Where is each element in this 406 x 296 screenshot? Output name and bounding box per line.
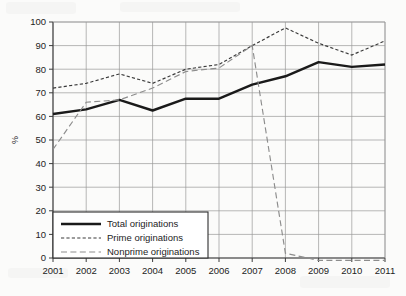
y-axis-tick-label: 100 bbox=[30, 16, 46, 27]
y-axis-tick-label: 0 bbox=[41, 252, 46, 263]
y-axis-tick-label: 40 bbox=[35, 158, 46, 169]
x-axis-tick-label: 2003 bbox=[109, 265, 130, 276]
legend-label-prime[interactable]: Prime originations bbox=[107, 232, 183, 243]
x-axis-tick-label: 2004 bbox=[142, 265, 163, 276]
x-axis-tick-label: 2009 bbox=[308, 265, 329, 276]
x-axis-tick-label: 2007 bbox=[242, 265, 263, 276]
chart-legend[interactable]: Total originationsPrime originationsNonp… bbox=[53, 212, 208, 258]
x-axis-tick-label: 2005 bbox=[175, 265, 196, 276]
y-axis-title-label: % bbox=[10, 136, 20, 144]
y-axis-tick-label: 10 bbox=[35, 229, 46, 240]
legend-label-nonprime[interactable]: Nonprime originations bbox=[107, 246, 200, 257]
y-axis-tick-label: 60 bbox=[35, 111, 46, 122]
chart-canvas: 0102030405060708090100 20012002200320042… bbox=[0, 0, 406, 296]
x-axis-tick-label: 2008 bbox=[275, 265, 296, 276]
x-axis-tick-label: 2002 bbox=[76, 265, 97, 276]
x-axis-tick-labels: 2001200220032004200520062007200820092010… bbox=[42, 258, 395, 276]
y-axis-tick-label: 80 bbox=[35, 64, 46, 75]
y-axis-tick-label: 50 bbox=[35, 134, 46, 145]
x-axis-tick-label: 2001 bbox=[42, 265, 63, 276]
x-axis-tick-label: 2011 bbox=[375, 265, 395, 276]
y-axis-tick-label: 20 bbox=[35, 205, 46, 216]
y-axis-tick-label: 90 bbox=[35, 40, 46, 51]
legend-label-total[interactable]: Total originations bbox=[107, 218, 179, 229]
y-axis-tick-label: 30 bbox=[35, 182, 46, 193]
x-axis-tick-label: 2006 bbox=[208, 265, 229, 276]
x-axis-tick-label: 2010 bbox=[341, 265, 362, 276]
y-axis-tick-label: 70 bbox=[35, 87, 46, 98]
y-axis-tick-labels: 0102030405060708090100 bbox=[30, 16, 53, 263]
y-axis-title: % bbox=[10, 136, 20, 144]
